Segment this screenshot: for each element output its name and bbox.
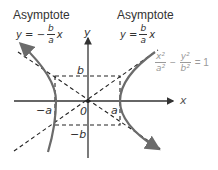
origin-label: 0 [80, 105, 87, 118]
y-term-denominator: b² [181, 63, 190, 73]
y-axis-label: y [84, 26, 91, 39]
label-pos-b: b [77, 64, 84, 77]
fraction-numerator: b [139, 24, 147, 35]
x-axis-label: x [180, 94, 187, 107]
x-term-denominator: a² [156, 63, 165, 73]
left-asymptote-rhs: x [57, 29, 63, 40]
y-term: y² b² [180, 52, 191, 73]
hyperbola-equation: x² a² − y² b² = 1 [153, 52, 209, 73]
y-term-numerator: y² [180, 52, 191, 63]
right-asymptote-rhs: x [149, 29, 155, 40]
right-asymptote-title: Asymptote [117, 8, 174, 22]
fraction-numerator: b [47, 24, 55, 35]
left-asymptote-title: Asymptote [13, 8, 70, 22]
fraction-denominator: a [48, 35, 54, 45]
minus-sign: − [170, 57, 176, 68]
equals-one: = 1 [195, 57, 209, 68]
right-branch [120, 52, 157, 148]
right-asymptote-lhs: y = [120, 29, 137, 40]
fraction-denominator: a [141, 35, 147, 45]
label-neg-a: −a [36, 104, 52, 117]
left-branch [22, 45, 56, 152]
left-asymptote-lhs: y = − [16, 29, 45, 40]
left-asymptote-fraction: b a [47, 24, 55, 45]
right-asymptote-equation: y = b a x [120, 24, 155, 45]
x-term: x² a² [155, 52, 166, 73]
origin-point [86, 99, 90, 103]
label-pos-a: a [111, 104, 118, 117]
right-asymptote-fraction: b a [139, 24, 147, 45]
label-neg-b: −b [70, 128, 86, 141]
x-term-numerator: x² [155, 52, 166, 63]
left-asymptote-equation: y = − b a x [16, 24, 63, 45]
